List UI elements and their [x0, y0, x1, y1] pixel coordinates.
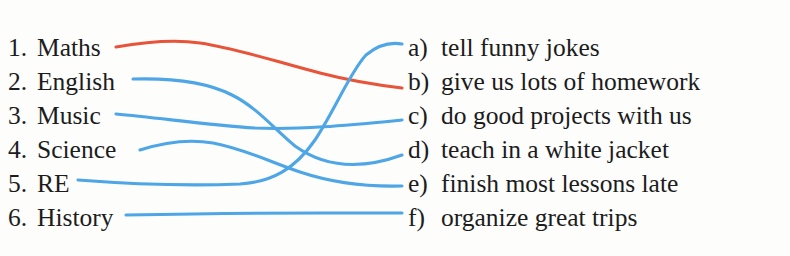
item-label: History	[37, 205, 114, 231]
item-label: organize great trips	[441, 205, 637, 231]
item-marker: f)	[408, 205, 441, 231]
item-marker: d)	[408, 137, 441, 163]
left-column: 1. Maths 2. English 3. Music 4. Science …	[0, 0, 400, 256]
list-item-option-e[interactable]: e) finish most lessons late	[408, 171, 678, 197]
right-column: a) tell funny jokes b) give us lots of h…	[400, 0, 790, 256]
list-item-option-b[interactable]: b) give us lots of homework	[408, 69, 700, 95]
item-marker: c)	[408, 103, 441, 129]
item-label: English	[37, 69, 115, 95]
list-item-option-d[interactable]: d) teach in a white jacket	[408, 137, 669, 163]
item-label: do good projects with us	[441, 103, 692, 129]
list-item-subject-5[interactable]: 5. RE	[8, 171, 70, 197]
item-label: RE	[37, 171, 70, 197]
item-marker: 2.	[8, 69, 37, 95]
list-item-subject-1[interactable]: 1. Maths	[8, 35, 101, 61]
item-marker: e)	[408, 171, 441, 197]
item-marker: 6.	[8, 205, 37, 231]
list-item-option-c[interactable]: c) do good projects with us	[408, 103, 692, 129]
item-label: tell funny jokes	[441, 35, 600, 61]
list-item-subject-4[interactable]: 4. Science	[8, 137, 116, 163]
list-item-subject-3[interactable]: 3. Music	[8, 103, 101, 129]
item-marker: a)	[408, 35, 441, 61]
item-marker: 5.	[8, 171, 37, 197]
list-item-option-a[interactable]: a) tell funny jokes	[408, 35, 600, 61]
item-marker: 1.	[8, 35, 37, 61]
list-item-subject-2[interactable]: 2. English	[8, 69, 115, 95]
item-label: Maths	[37, 35, 101, 61]
item-marker: 3.	[8, 103, 37, 129]
item-label: finish most lessons late	[441, 171, 678, 197]
item-marker: 4.	[8, 137, 37, 163]
item-label: Music	[37, 103, 101, 129]
list-item-option-f[interactable]: f) organize great trips	[408, 205, 637, 231]
item-label: teach in a white jacket	[441, 137, 669, 163]
item-marker: b)	[408, 69, 441, 95]
item-label: Science	[37, 137, 116, 163]
list-item-subject-6[interactable]: 6. History	[8, 205, 114, 231]
matching-exercise: 1. Maths 2. English 3. Music 4. Science …	[0, 0, 790, 256]
item-label: give us lots of homework	[441, 69, 700, 95]
